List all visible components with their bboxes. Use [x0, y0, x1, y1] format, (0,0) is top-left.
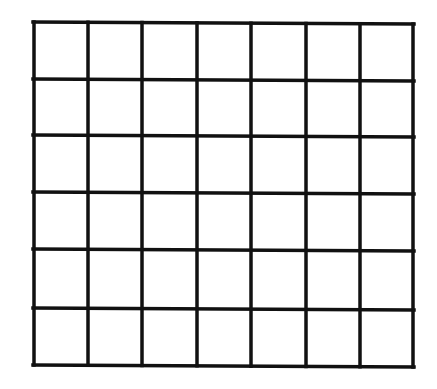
grid-cell-r1-c7 — [360, 24, 413, 81]
grid-cell-r1-c6 — [306, 23, 360, 80]
grid-cell-r5-c1 — [34, 249, 88, 308]
grid-cell-r3-c1 — [34, 135, 88, 192]
grid-cell-r3-c6 — [306, 136, 360, 193]
grid-cell-r5-c4 — [197, 250, 251, 309]
grid-cell-r6-c6 — [306, 309, 360, 366]
grid-cell-r1-c4 — [197, 23, 251, 80]
grid-cell-r6-c5 — [251, 309, 306, 366]
grid-cell-r5-c3 — [142, 250, 197, 309]
grid-cell-r4-c4 — [197, 193, 251, 250]
grid-cell-r4-c1 — [34, 192, 88, 249]
grid-cell-r6-c2 — [88, 308, 142, 365]
grid-top-border — [33, 22, 414, 24]
grid-row-line — [33, 79, 414, 81]
grid-cell-r4-c7 — [360, 194, 413, 251]
grid-row-line — [33, 135, 414, 137]
grid-cell-r3-c5 — [251, 136, 306, 193]
grid-diagram — [0, 0, 437, 389]
grid-cell-r4-c6 — [306, 193, 360, 250]
grid-cell-r2-c7 — [360, 81, 413, 137]
grid-cell-r4-c2 — [88, 192, 142, 249]
grid-cell-r4-c5 — [251, 193, 306, 250]
grid-cell-r3-c3 — [142, 136, 197, 193]
grid-cell-r2-c5 — [251, 80, 306, 136]
grid-row-line — [33, 249, 414, 251]
grid-cell-r1-c2 — [88, 22, 142, 79]
grid-cell-r5-c5 — [251, 250, 306, 309]
grid-cell-r3-c4 — [197, 136, 251, 193]
grid-cell-r2-c6 — [306, 80, 360, 136]
grid-cell-r2-c3 — [142, 80, 197, 136]
grid-bottom-border — [33, 365, 414, 367]
grid-cell-r1-c5 — [251, 23, 306, 80]
grid-cell-r4-c3 — [142, 193, 197, 250]
grid-cell-r5-c2 — [88, 249, 142, 308]
canvas — [0, 0, 437, 389]
grid-cell-r2-c2 — [88, 79, 142, 135]
grid-cell-r6-c1 — [34, 308, 88, 365]
grid-cell-r6-c4 — [197, 309, 251, 366]
grid-row-line — [33, 192, 414, 194]
grid-cell-r1-c3 — [142, 23, 197, 80]
grid-row-line — [33, 308, 414, 310]
grid-cell-r1-c1 — [34, 22, 88, 79]
grid-cell-r3-c7 — [360, 137, 413, 194]
grid-cell-r5-c7 — [360, 251, 413, 310]
grid-cell-r3-c2 — [88, 135, 142, 192]
grid-cell-r2-c4 — [197, 80, 251, 136]
grid-cell-r2-c1 — [34, 79, 88, 135]
grid-cell-r6-c3 — [142, 309, 197, 366]
grid-cell-r5-c6 — [306, 250, 360, 309]
grid-cell-r6-c7 — [360, 310, 413, 367]
